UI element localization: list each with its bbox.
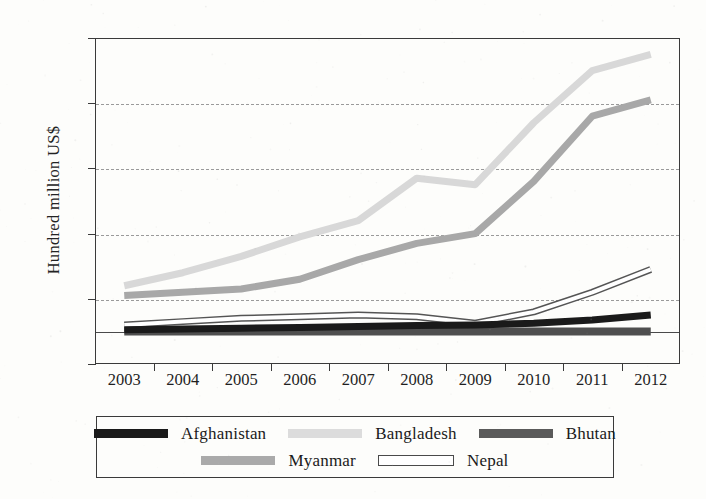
legend-swatch-icon <box>288 429 362 438</box>
legend-item-nepal: Nepal <box>378 451 509 471</box>
legend-label: Bangladesh <box>375 424 456 444</box>
series-nepal <box>124 269 651 324</box>
legend-item-afghanistan: Afghanistan <box>94 424 266 444</box>
legend-swatch-icon <box>201 456 275 465</box>
legend-item-myanmar: Myanmar <box>201 451 356 471</box>
legend-item-bhutan: Bhutan <box>479 424 616 444</box>
legend-label: Bhutan <box>566 424 616 444</box>
legend-item-bangladesh: Bangladesh <box>288 424 456 444</box>
legend-row-primary: AfghanistanBangladeshBhutan <box>97 420 613 447</box>
legend-label: Afghanistan <box>181 424 266 444</box>
legend-row-secondary: MyanmarNepal <box>97 447 613 474</box>
legend-swatch-icon <box>479 429 553 438</box>
legend-label: Myanmar <box>288 451 356 471</box>
legend-swatch-icon <box>378 455 454 466</box>
chart-legend: AfghanistanBangladeshBhutan MyanmarNepal <box>96 416 614 478</box>
legend-swatch-icon <box>94 429 168 438</box>
legend-label: Nepal <box>467 451 509 471</box>
chart-figure: Hundred million US$ 9070503010-10 200320… <box>0 0 706 499</box>
